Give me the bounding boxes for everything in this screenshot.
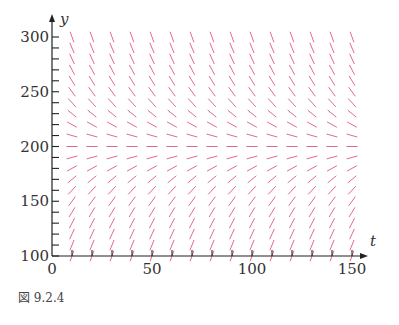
slope-segment [68,110,76,117]
slope-segment [249,76,254,85]
slope-segment [127,122,136,127]
slope-segment [269,208,274,217]
slope-segment [310,229,314,238]
slope-segment [269,88,275,96]
slope-segment [190,43,194,53]
slope-segment [247,134,257,137]
slope-segment [87,156,97,159]
slope-segment [89,208,94,217]
t-tick-label: 50 [142,260,161,278]
slope-segment [110,229,114,238]
slope-segment [330,32,334,42]
slope-segment [167,122,176,127]
slope-segment [170,65,175,74]
slope-segment [288,110,296,117]
slope-segment [208,110,216,117]
slope-segment [90,32,94,42]
slope-segment [310,219,315,228]
slope-segment [308,186,315,194]
slope-segment [167,156,177,159]
slope-segment [267,156,277,159]
slope-segment [187,156,197,159]
slope-segment [330,229,334,238]
slope-segment [328,99,335,107]
slope-segment [309,76,314,85]
slope-segment [330,54,334,63]
slope-segment [309,88,315,96]
slope-segment [90,219,95,228]
slope-segment [308,110,316,117]
y-tick-label: 300 [20,28,49,46]
slope-segment [89,76,94,85]
slope-segment [247,122,256,127]
slope-segment [229,76,234,85]
slope-segment [189,76,194,85]
slope-segment [128,99,135,107]
slope-segment [287,134,297,137]
slope-segment [207,122,216,127]
slope-segment [287,122,296,127]
y-axis-arrow-icon [49,14,55,22]
slope-segment [147,122,156,127]
slope-segments [67,32,357,261]
figure-caption: 図 9.2.4 [18,288,64,305]
slope-segment [169,208,174,217]
slope-segment [230,43,234,53]
slope-segment [88,99,95,107]
slope-segment [309,208,314,217]
slope-segment [67,156,77,159]
slope-segment [169,88,175,96]
slope-segment [149,88,155,96]
slope-segment [110,54,114,63]
slope-segment [88,186,95,194]
slope-segment [327,134,337,137]
slope-segment [168,99,175,107]
slope-segment [290,54,294,63]
slope-segment [308,99,315,107]
slope-segment [289,208,294,217]
slope-segment [270,54,274,63]
slope-segment [88,176,96,183]
slope-segment [128,176,136,183]
slope-segment [347,156,357,159]
slope-segment [349,197,355,205]
slope-segment [230,54,234,63]
slope-segment [248,110,256,117]
y-tick-label: 100 [20,247,49,265]
slope-segment [268,99,275,107]
slope-segment [190,32,194,42]
slope-segment [329,197,335,205]
slope-segment [270,219,275,228]
slope-segment [169,76,174,85]
slope-segment [270,65,275,74]
slope-segment [190,229,194,238]
slope-segment [147,166,156,171]
slope-segment [150,229,154,238]
slope-segment [228,176,236,183]
slope-segment [208,186,215,194]
slope-segment [90,43,94,53]
slope-segment [150,240,154,250]
slope-segment [229,88,235,96]
slope-segment [330,43,334,53]
slope-segment [210,54,214,63]
slope-segment [67,122,76,127]
slope-segment [87,122,96,127]
slope-segment [268,186,275,194]
t-tick-label: 100 [238,260,267,278]
slope-segment [249,208,254,217]
slope-segment [90,240,94,250]
slope-segment [350,65,355,74]
slope-segment [227,166,236,171]
slope-segment [150,32,154,42]
slope-segment [109,88,115,96]
slope-segment [190,54,194,63]
slope-segment [149,208,154,217]
slope-segment [227,134,237,137]
slope-segment [250,229,254,238]
slope-segment [349,88,355,96]
slope-segment [168,186,175,194]
slope-segment [70,54,74,63]
slope-segment [270,43,274,53]
slope-segment [307,156,317,159]
